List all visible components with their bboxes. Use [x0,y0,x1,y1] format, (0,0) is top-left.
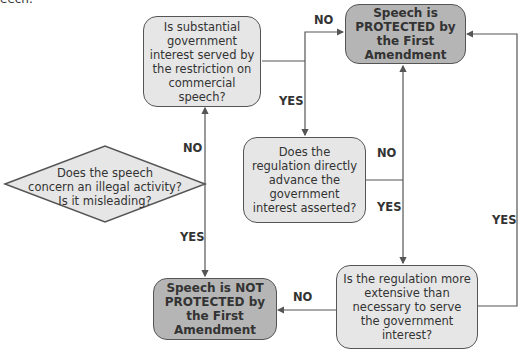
diamond-no-label: NO [183,141,202,155]
more-extensive-box: Is the regulation more extensive than ne… [336,265,478,349]
substantial-interest-box: Is substantial government interest serve… [143,16,261,107]
directly-advance-box: Does the regulation directly advance the… [243,137,366,223]
advance-yes-label: YES [377,200,401,214]
extensive-no-label: NO [293,290,312,304]
interest-yes-label: YES [279,94,303,108]
not-protected-outcome-box: Speech is NOT PROTECTED by the First Ame… [153,278,277,340]
advance-no-label: NO [377,146,396,160]
extensive-yes-label: YES [492,213,516,227]
diamond-yes-label: YES [180,230,204,244]
interest-no-label: NO [314,13,333,27]
protected-outcome-box: Speech is PROTECTED by the First Amendme… [345,4,466,64]
diamond-text: Does the speech concern an illegal activ… [5,166,205,208]
